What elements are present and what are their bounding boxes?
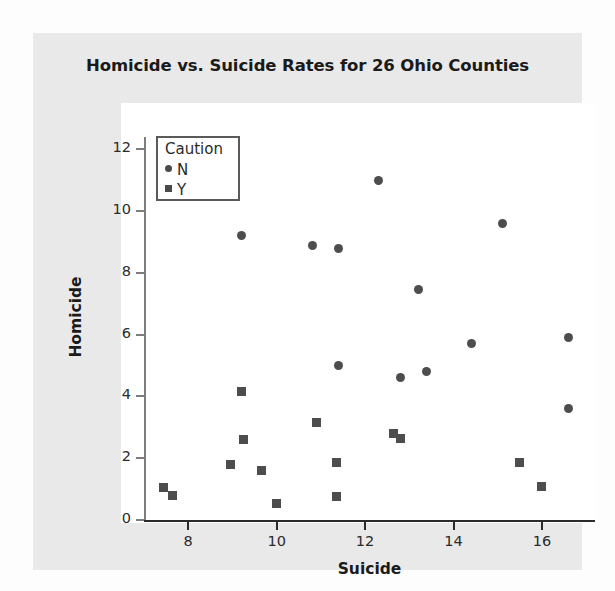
x-tick-label: 8	[168, 533, 208, 549]
y-tick-label: 8	[97, 263, 131, 279]
legend-item-n[interactable]: N	[165, 160, 188, 179]
y-tick-mark	[136, 210, 144, 212]
y-tick-label: 0	[97, 510, 131, 526]
legend[interactable]: Caution N Y	[156, 136, 240, 201]
scatter-plot-screenshot: Homicide vs. Suicide Rates for 26 Ohio C…	[0, 0, 615, 591]
data-point-y[interactable]	[332, 492, 341, 501]
x-axis-title: Suicide	[144, 560, 595, 578]
x-tick-label: 10	[257, 533, 297, 549]
y-tick-mark	[136, 272, 144, 274]
y-axis-title: Homicide	[67, 257, 85, 377]
data-point-n[interactable]	[308, 241, 317, 250]
data-point-y[interactable]	[257, 466, 266, 475]
x-tick-label: 12	[345, 533, 385, 549]
data-point-n[interactable]	[334, 244, 343, 253]
data-point-y[interactable]	[515, 458, 524, 467]
data-point-y[interactable]	[272, 499, 281, 508]
y-tick-label: 10	[97, 201, 131, 217]
data-point-y[interactable]	[312, 418, 321, 427]
x-tick-mark	[541, 522, 543, 530]
data-point-y[interactable]	[332, 458, 341, 467]
legend-label-y: Y	[177, 181, 186, 199]
x-axis-line	[144, 520, 595, 522]
legend-title: Caution	[165, 140, 223, 158]
y-tick-label: 12	[97, 139, 131, 155]
data-point-n[interactable]	[374, 176, 383, 185]
y-axis-line	[144, 137, 146, 522]
x-tick-label: 16	[522, 533, 562, 549]
data-point-y[interactable]	[537, 482, 546, 491]
square-marker-icon	[165, 185, 172, 192]
data-point-y[interactable]	[237, 387, 246, 396]
data-point-y[interactable]	[226, 460, 235, 469]
circle-marker-icon	[165, 165, 172, 172]
data-point-y[interactable]	[396, 434, 405, 443]
x-tick-mark	[453, 522, 455, 530]
data-point-y[interactable]	[168, 491, 177, 500]
page-title: Homicide vs. Suicide Rates for 26 Ohio C…	[33, 56, 582, 75]
x-tick-mark	[364, 522, 366, 530]
x-tick-mark	[187, 522, 189, 530]
y-tick-mark	[136, 148, 144, 150]
y-tick-label: 2	[97, 448, 131, 464]
data-point-y[interactable]	[159, 483, 168, 492]
legend-item-y[interactable]: Y	[165, 180, 186, 199]
y-tick-mark	[136, 334, 144, 336]
y-tick-mark	[136, 395, 144, 397]
y-tick-mark	[136, 457, 144, 459]
legend-label-n: N	[177, 161, 188, 179]
data-point-y[interactable]	[239, 435, 248, 444]
x-tick-label: 14	[434, 533, 474, 549]
data-point-n[interactable]	[498, 219, 507, 228]
data-point-n[interactable]	[414, 285, 423, 294]
y-tick-mark	[136, 519, 144, 521]
x-tick-mark	[276, 522, 278, 530]
y-tick-label: 6	[97, 325, 131, 341]
chart-figure: Homicide vs. Suicide Rates for 26 Ohio C…	[33, 33, 582, 570]
y-tick-label: 4	[97, 386, 131, 402]
